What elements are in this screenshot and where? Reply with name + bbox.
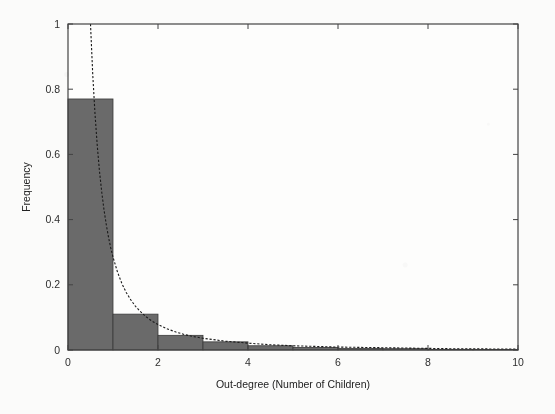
histogram-bar bbox=[248, 346, 293, 350]
x-tick-label: 0 bbox=[65, 356, 71, 368]
y-axis-title: Frequency bbox=[20, 161, 32, 211]
y-tick-label: 0.6 bbox=[45, 148, 60, 160]
y-tick-label: 0.4 bbox=[45, 213, 60, 225]
plot-area-background bbox=[68, 24, 518, 350]
y-axis-tick-labels: 00.20.40.60.81 bbox=[45, 18, 60, 356]
x-axis-title: Out-degree (Number of Children) bbox=[216, 378, 370, 390]
x-axis-tick-labels: 0246810 bbox=[65, 356, 524, 368]
x-tick-label: 4 bbox=[245, 356, 251, 368]
y-tick-label: 1 bbox=[54, 18, 60, 30]
x-tick-label: 8 bbox=[425, 356, 431, 368]
x-tick-label: 6 bbox=[335, 356, 341, 368]
x-tick-label: 2 bbox=[155, 356, 161, 368]
histogram-bar bbox=[158, 335, 203, 350]
y-tick-label: 0 bbox=[54, 344, 60, 356]
figure-panel: 0246810 00.20.40.60.81 Out-degree (Numbe… bbox=[0, 0, 555, 414]
x-tick-label: 10 bbox=[512, 356, 524, 368]
histogram-bar bbox=[113, 314, 158, 350]
chart-svg: 0246810 00.20.40.60.81 Out-degree (Numbe… bbox=[0, 0, 555, 414]
histogram-bar bbox=[203, 342, 248, 350]
y-tick-label: 0.8 bbox=[45, 83, 60, 95]
y-tick-label: 0.2 bbox=[45, 278, 60, 290]
